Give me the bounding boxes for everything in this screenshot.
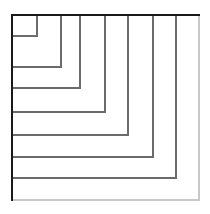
figure-canvas xyxy=(0,0,210,214)
nested-rectangles-diagram xyxy=(0,0,210,214)
